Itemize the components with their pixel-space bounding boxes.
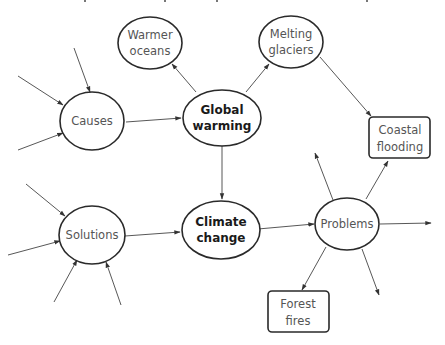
edge-solutions-to-climate-change: [125, 232, 180, 236]
node-forest-fires[interactable]: Forest fires: [268, 291, 329, 332]
edge-problems-up: [315, 153, 333, 200]
node-label-line1: Climate: [195, 215, 247, 229]
concept-map-diagram: Warmer oceans Melting glaciers Causes Gl…: [0, 0, 445, 345]
edge-melting-glaciers-to-coastal-flooding: [320, 57, 371, 116]
node-label: Solutions: [66, 228, 119, 242]
edge-into-solutions-2: [8, 241, 60, 255]
node-label-line1: Forest: [280, 297, 316, 311]
node-problems[interactable]: Problems: [315, 198, 379, 250]
edge-problems-right: [380, 223, 431, 224]
node-label-line1: Coastal: [379, 123, 422, 137]
node-global-warming[interactable]: Global warming: [183, 90, 261, 146]
edge-problems-to-coastal-flooding: [366, 161, 388, 199]
node-climate-change[interactable]: Climate change: [182, 201, 260, 259]
edge-into-causes-1: [74, 48, 90, 92]
node-label-line1: Melting: [270, 27, 313, 41]
edge-problems-down: [362, 249, 379, 295]
edge-into-causes-3: [18, 133, 63, 150]
node-coastal-flooding[interactable]: Coastal flooding: [369, 117, 430, 158]
node-warmer-oceans[interactable]: Warmer oceans: [118, 17, 182, 69]
node-label-line2: oceans: [130, 44, 171, 58]
node-label-line2: change: [196, 231, 245, 245]
node-label-line1: Global: [200, 103, 243, 117]
node-causes[interactable]: Causes: [60, 92, 124, 150]
edge-into-solutions-4: [106, 262, 121, 305]
cut-off-heading-fragments: [84, 0, 368, 2]
node-label-line2: flooding: [377, 140, 423, 154]
edge-into-solutions-1: [26, 184, 65, 216]
edge-climate-change-to-problems: [258, 224, 314, 229]
node-label: Problems: [320, 217, 373, 231]
edge-into-solutions-3: [54, 260, 77, 302]
node-solutions[interactable]: Solutions: [59, 206, 125, 264]
edge-causes-to-global-warming: [126, 118, 181, 122]
node-melting-glaciers[interactable]: Melting glaciers: [259, 16, 323, 68]
edges: [8, 48, 431, 305]
node-label-line2: warming: [193, 119, 252, 133]
node-label-line2: fires: [286, 314, 311, 328]
edge-into-causes-2: [18, 76, 63, 105]
node-label: Causes: [71, 114, 112, 128]
edge-problems-to-forest-fires: [302, 247, 326, 290]
edge-global-warming-to-warmer-oceans: [172, 64, 196, 92]
node-label-line1: Warmer: [127, 28, 172, 42]
edge-global-warming-to-melting-glaciers: [246, 64, 269, 92]
node-label-line2: glaciers: [269, 43, 314, 57]
